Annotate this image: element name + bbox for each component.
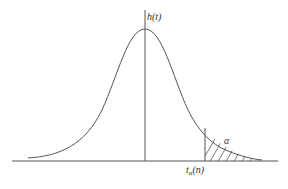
critical-value-suffix: (n) — [192, 164, 204, 175]
critical-value-label: tα(n) — [186, 165, 204, 177]
y-axis-label: h(t) — [147, 12, 161, 22]
t-distribution-diagram — [0, 0, 288, 189]
rejection-region-hatching — [200, 130, 276, 165]
tail-area-label: α — [224, 136, 229, 146]
